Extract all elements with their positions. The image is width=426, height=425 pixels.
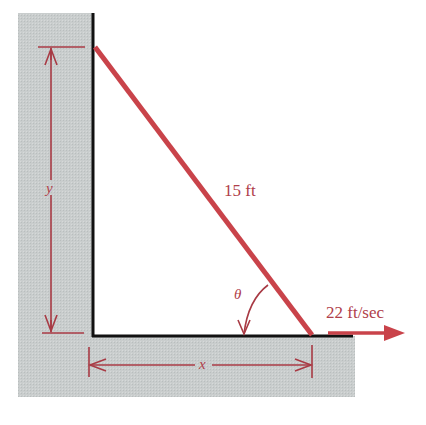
theta-arc bbox=[238, 285, 268, 334]
ladder-length-label: 15 ft bbox=[224, 181, 256, 200]
ladder bbox=[95, 47, 312, 335]
y-dimension-label: y bbox=[44, 180, 53, 196]
theta-label: θ bbox=[234, 286, 242, 302]
velocity-label: 22 ft/sec bbox=[326, 303, 385, 322]
wall-ground-shading bbox=[18, 13, 355, 397]
ladder-diagram: y x θ 15 ft 22 ft/sec bbox=[0, 0, 426, 425]
x-dimension-label: x bbox=[198, 356, 206, 372]
